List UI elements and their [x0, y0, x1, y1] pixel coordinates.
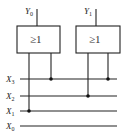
gate-symbol-1: ≥1: [89, 33, 101, 45]
junction-dot-x2-gate1: [86, 94, 90, 98]
input-label-x3: X3: [5, 74, 15, 85]
logic-circuit-diagram: Y0 ≥1 Y1 ≥1 X3 X2 X1 X0: [0, 0, 124, 131]
input-label-x1: X1: [5, 106, 15, 117]
junction-dot-x1-gate0: [27, 109, 31, 113]
junctions: [27, 77, 110, 113]
junction-dot-x3-gate0: [49, 77, 53, 81]
input-label-x0: X0: [5, 121, 15, 131]
input-bus: X3 X2 X1 X0: [5, 74, 117, 131]
output-label-y1: Y1: [84, 6, 92, 17]
gate-symbol-0: ≥1: [30, 33, 42, 45]
output-label-y0: Y0: [25, 6, 33, 17]
junction-dot-x3-gate1: [106, 77, 110, 81]
input-label-x2: X2: [5, 91, 15, 102]
or-gate-y0: Y0 ≥1: [17, 6, 60, 111]
or-gate-y1: Y1 ≥1: [76, 6, 120, 96]
